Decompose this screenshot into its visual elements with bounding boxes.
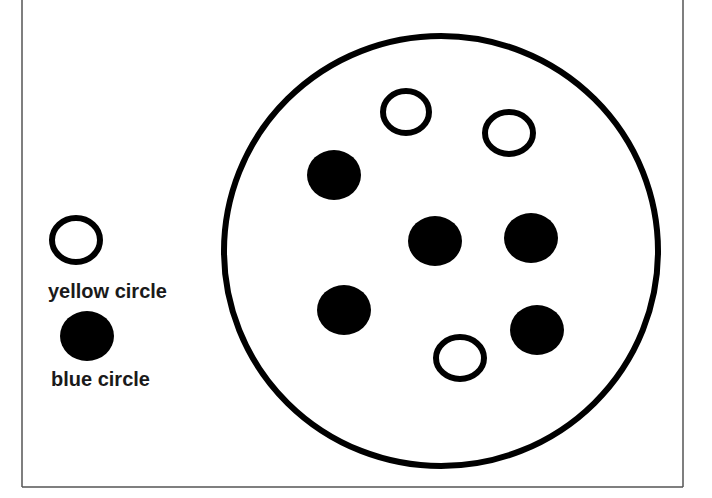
diagram-svg (0, 0, 712, 498)
yellow-circle-icon (485, 112, 533, 154)
legend-blue-circle-icon (60, 311, 114, 361)
legend-label-yellow-circle: yellow circle (48, 280, 167, 303)
blue-circle-icon (504, 213, 558, 263)
diagram-canvas: yellow circle blue circle (0, 0, 712, 498)
legend-yellow-circle-icon (52, 218, 100, 262)
blue-circle-icon (510, 305, 564, 355)
yellow-circle-icon (436, 337, 484, 379)
yellow-circle-icon (383, 91, 429, 133)
blue-circle-icon (408, 216, 462, 266)
blue-circle-icon (317, 285, 371, 335)
legend-label-blue-circle: blue circle (51, 368, 150, 391)
blue-circle-icon (307, 150, 361, 200)
shapes-group (307, 91, 564, 379)
